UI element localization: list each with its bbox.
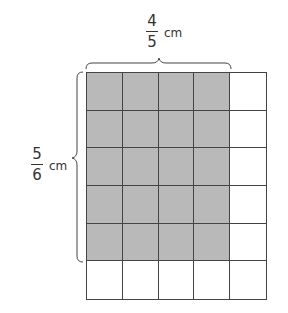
grid-cell — [87, 261, 123, 299]
shaded-cell — [194, 148, 230, 186]
shaded-cell — [87, 111, 123, 149]
top-brace-icon — [86, 58, 231, 69]
shaded-cell — [194, 73, 230, 111]
shaded-cell — [123, 111, 159, 149]
fraction-bar — [146, 31, 158, 32]
shaded-cell — [123, 224, 159, 262]
fraction-bar — [31, 164, 43, 165]
left-fraction: 5 6 — [31, 146, 43, 183]
left-numerator: 5 — [32, 146, 42, 162]
shaded-cell — [123, 148, 159, 186]
shaded-cell — [194, 224, 230, 262]
area-grid — [86, 72, 267, 300]
top-denominator: 5 — [147, 34, 157, 50]
grid-cell — [159, 261, 195, 299]
shaded-cell — [159, 186, 195, 224]
shaded-cell — [159, 148, 195, 186]
shaded-cell — [159, 224, 195, 262]
shaded-cell — [87, 224, 123, 262]
grid-cell — [230, 148, 266, 186]
left-brace-icon — [72, 72, 83, 262]
shaded-cell — [87, 148, 123, 186]
shaded-cell — [159, 73, 195, 111]
grid-cell — [230, 73, 266, 111]
shaded-cell — [123, 186, 159, 224]
shaded-cell — [194, 111, 230, 149]
grid-cell — [230, 186, 266, 224]
shaded-cell — [87, 73, 123, 111]
shaded-cell — [159, 111, 195, 149]
left-unit: cm — [49, 159, 67, 173]
shaded-cell — [123, 73, 159, 111]
shaded-cell — [194, 186, 230, 224]
grid-cell — [230, 261, 266, 299]
left-denominator: 6 — [32, 167, 42, 183]
shaded-cell — [87, 186, 123, 224]
grid-cell — [123, 261, 159, 299]
top-numerator: 4 — [147, 13, 157, 29]
top-fraction: 4 5 — [146, 13, 158, 50]
grid-cell — [230, 111, 266, 149]
grid-cell — [194, 261, 230, 299]
grid-cell — [230, 224, 266, 262]
top-unit: cm — [164, 26, 182, 40]
